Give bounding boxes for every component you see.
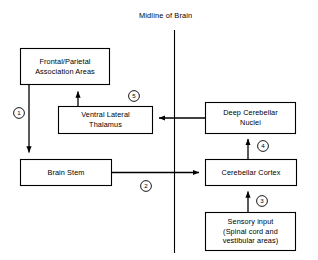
node-box-frontal-parietal — [21, 49, 110, 85]
node-box-ventral-lateral-thalamus — [59, 107, 153, 134]
node-box-brain-stem — [21, 160, 112, 186]
diagram-vector-layer — [0, 0, 318, 260]
step-marker-label-4: 4 — [257, 140, 269, 152]
node-box-deep-cerebellar-nuclei — [206, 103, 296, 134]
step-marker-label-3: 3 — [256, 195, 268, 207]
node-box-cerebellar-cortex — [206, 160, 297, 186]
diagram-canvas: Midline of Brain Frontal/Parietal Associ… — [0, 0, 318, 260]
midline-of-brain-label: Midline of Brain — [139, 11, 192, 20]
step-marker-label-2: 2 — [140, 180, 152, 192]
node-box-sensory-input — [206, 213, 296, 251]
step-marker-label-5: 5 — [128, 90, 140, 102]
step-marker-label-1: 1 — [13, 107, 25, 119]
